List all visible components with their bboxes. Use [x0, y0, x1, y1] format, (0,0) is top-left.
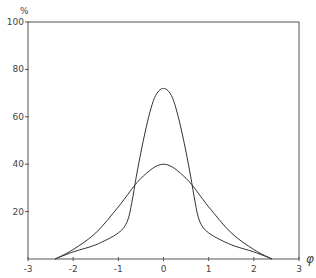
x-tick-label: -3 [24, 264, 33, 274]
chart: 20406080100 -3-2-10123 % φ [0, 0, 316, 278]
y-tick-label: 60 [13, 112, 25, 122]
y-axis-unit-label: % [20, 6, 29, 16]
y-tick-label: 100 [7, 17, 24, 27]
x-tick-label: 1 [206, 264, 212, 274]
x-tick-label: 0 [161, 264, 167, 274]
data-curves [55, 88, 272, 259]
axes-box [28, 22, 299, 259]
y-tick-label: 40 [13, 159, 25, 169]
y-tick-label: 80 [13, 64, 25, 74]
narrow-curve [55, 88, 272, 259]
x-tick-label: -1 [114, 264, 123, 274]
x-tick-label: 3 [296, 264, 302, 274]
y-tick-label: 20 [13, 207, 25, 217]
x-tick-label: 2 [251, 264, 257, 274]
y-axis-ticks: 20406080100 [7, 17, 29, 217]
wide-curve [55, 164, 272, 259]
x-tick-label: -2 [69, 264, 78, 274]
x-axis-ticks: -3-2-10123 [24, 257, 302, 274]
plot-frame [28, 22, 299, 259]
x-axis-symbol-label: φ [306, 252, 314, 266]
